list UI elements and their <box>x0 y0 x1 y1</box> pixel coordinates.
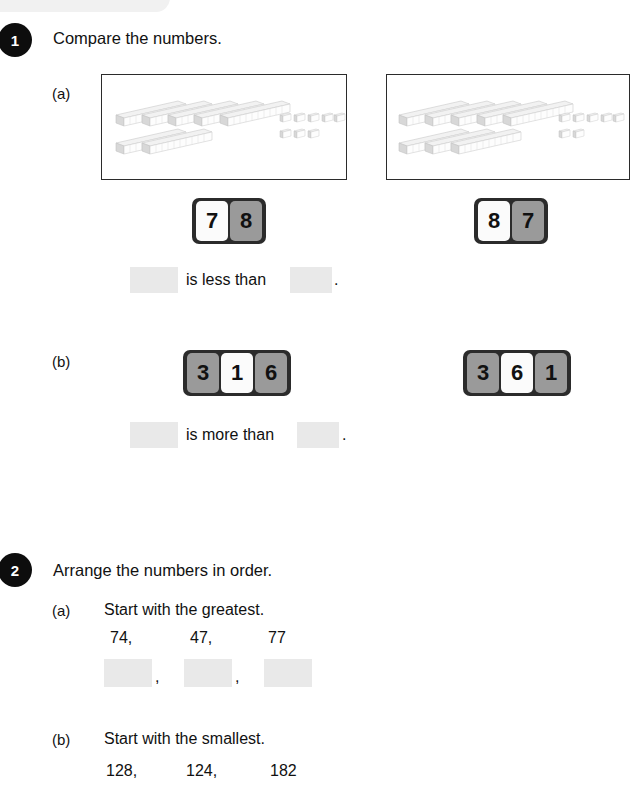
given-number-2a-2: 47, <box>190 629 212 647</box>
answer-separator-2a-2: , <box>235 668 239 686</box>
question-1a-label: (a) <box>52 85 70 102</box>
question-number-label: 2 <box>11 562 19 579</box>
question-number-badge-2: 2 <box>0 553 32 587</box>
question-2a-instruction: Start with the greatest. <box>104 601 264 619</box>
answer-blank-1a-second[interactable] <box>290 267 332 293</box>
digit-tile: 1 <box>221 353 253 393</box>
header-accent-bar <box>0 0 170 12</box>
comparison-phrase-1a: is less than <box>186 271 266 289</box>
digit-tile: 8 <box>478 201 510 241</box>
question-number-badge-1: 1 <box>0 23 32 57</box>
digit-tiles-right-1b: 3 6 1 <box>463 350 571 396</box>
question-1-title: Compare the numbers. <box>53 29 222 48</box>
digit-tile: 3 <box>187 353 219 393</box>
digit-tile: 1 <box>535 353 567 393</box>
answer-blank-1b-first[interactable] <box>130 422 178 448</box>
digit-tiles-left-1b: 3 1 6 <box>183 350 291 396</box>
question-number-label: 1 <box>11 32 19 49</box>
question-1b-label: (b) <box>52 353 70 370</box>
digit-tile: 7 <box>512 201 544 241</box>
given-number-2a-1: 74, <box>110 629 132 647</box>
given-number-2b-1: 128, <box>106 762 137 780</box>
question-2b-label: (b) <box>52 731 70 748</box>
digit-tile: 8 <box>230 201 262 241</box>
base-ten-blocks-panel-left <box>101 74 347 180</box>
digit-tile: 7 <box>196 201 228 241</box>
digit-tiles-right-1a: 8 7 <box>474 198 548 244</box>
comparison-phrase-1b: is more than <box>186 426 274 444</box>
answer-blank-1a-first[interactable] <box>130 267 178 293</box>
answer-blank-2a-3[interactable] <box>264 659 312 687</box>
question-2b-instruction: Start with the smallest. <box>104 730 265 748</box>
answer-blank-2a-2[interactable] <box>184 659 232 687</box>
question-2a-label: (a) <box>52 602 70 619</box>
question-2-title: Arrange the numbers in order. <box>53 561 272 580</box>
sentence-period-1a: . <box>334 271 338 289</box>
answer-separator-2a-1: , <box>155 668 159 686</box>
answer-blank-2a-1[interactable] <box>104 659 152 687</box>
given-number-2a-3: 77 <box>268 629 286 647</box>
sentence-period-1b: . <box>342 426 346 444</box>
given-number-2b-3: 182 <box>270 762 297 780</box>
digit-tile: 6 <box>501 353 533 393</box>
digit-tile: 3 <box>467 353 499 393</box>
digit-tiles-left-1a: 7 8 <box>192 198 266 244</box>
answer-blank-1b-second[interactable] <box>297 422 339 448</box>
base-ten-blocks-87-illustration <box>387 75 629 179</box>
given-number-2b-2: 124, <box>186 762 217 780</box>
base-ten-blocks-78-illustration <box>102 75 346 179</box>
digit-tile: 6 <box>255 353 287 393</box>
base-ten-blocks-panel-right <box>386 74 630 180</box>
